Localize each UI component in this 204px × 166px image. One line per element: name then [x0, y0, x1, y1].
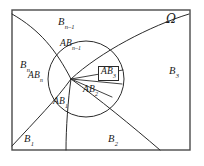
label-base: AB: [28, 70, 40, 80]
label-base: AB: [60, 38, 72, 48]
label-B_2: B2: [108, 134, 118, 147]
omega-label: Ω: [166, 13, 176, 25]
label-B_1: B1: [24, 134, 34, 147]
label-subscript: n–1: [72, 45, 81, 51]
label-base: AB: [53, 96, 65, 106]
label-AB_n_minus_1: ABn–1: [60, 39, 81, 51]
label-B_3: B3: [169, 66, 179, 79]
label-subscript: 3: [113, 73, 116, 79]
label-subscript: 2: [115, 140, 118, 147]
label-base: AB: [101, 66, 113, 76]
label-subscript: n: [40, 77, 43, 83]
label-AB_2: AB2: [83, 85, 98, 97]
label-subscript: 2: [95, 91, 98, 97]
label-AB_3: AB3: [98, 66, 119, 81]
label-subscript: 1: [65, 103, 68, 109]
label-base: B: [169, 65, 176, 76]
label-base: AB: [83, 84, 95, 94]
label-base: B: [108, 133, 115, 144]
figure-root: Ω Bn–1BnB1B2B3 ABn–1ABnAB1AB2AB3: [0, 0, 204, 166]
label-base: B: [58, 16, 65, 27]
label-AB_n: ABn: [28, 71, 43, 83]
label-base: B: [24, 133, 31, 144]
label-B_n_minus_1: Bn–1: [58, 17, 74, 30]
label-subscript: 3: [176, 72, 179, 79]
label-base: B: [20, 59, 27, 70]
label-subscript: 1: [31, 140, 34, 147]
label-subscript: n–1: [65, 23, 75, 30]
label-AB_1: AB1: [53, 97, 68, 109]
